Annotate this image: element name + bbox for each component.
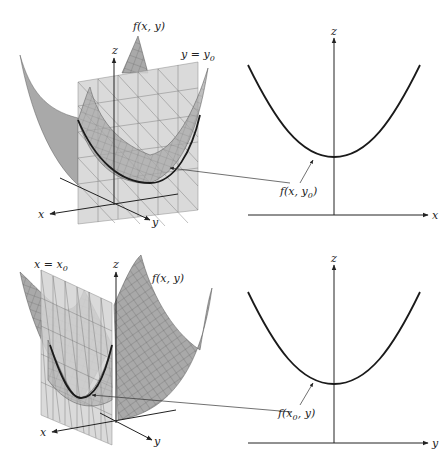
y-axis-label-bottom: y — [153, 435, 161, 448]
z-axis-label-bottom: z — [112, 258, 119, 271]
bottom-surface-panel: z x y f(x, y) x = x0 — [20, 255, 212, 448]
surface-left-wing — [20, 55, 78, 185]
z-axis-label: z — [111, 44, 118, 57]
figure-canvas: z x y f(x, y) y = y0 z x f(x, y0) — [0, 0, 448, 462]
section-x-label: x — [432, 209, 439, 222]
top-section-panel: z x f(x, y0) — [248, 25, 439, 222]
surface-label: f(x, y) — [132, 20, 165, 33]
section-z-label-bottom: z — [330, 252, 337, 265]
top-surface-panel: z x y f(x, y) y = y0 — [20, 20, 215, 229]
surface-back-peak — [122, 36, 148, 73]
trace-arrow-top — [300, 160, 313, 183]
plane-label-bottom: x = x0 — [34, 258, 68, 273]
surface-label-bottom: f(x, y) — [151, 272, 184, 285]
trace-arrow-bottom — [300, 383, 313, 405]
trace-label-top: f(x, y0) — [279, 185, 317, 200]
bottom-section-panel: z y f(x0, y) — [248, 252, 439, 450]
section-y-label: y — [431, 437, 439, 450]
y-axis-label: y — [151, 216, 159, 229]
section-z-label-top: z — [330, 25, 337, 38]
x-axis-label: x — [38, 208, 45, 221]
trace-label-bottom: f(x0, y) — [277, 407, 315, 422]
x-axis-label-bottom: x — [40, 426, 47, 439]
plane-label: y = y0 — [180, 48, 215, 63]
